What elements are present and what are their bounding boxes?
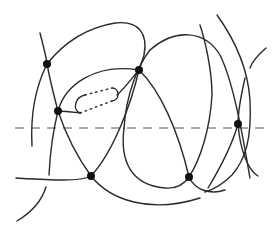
- curve-right-strand-b: [238, 48, 266, 176]
- node-5: [87, 172, 95, 180]
- node-4: [234, 120, 242, 128]
- curve-n2-to-bottom-left: [16, 70, 139, 180]
- curve-left-outer: [32, 64, 47, 146]
- node-3: [54, 107, 62, 115]
- curve-right-strand-c: [208, 124, 238, 188]
- node-2: [135, 66, 143, 74]
- handle-dotted-top: [85, 88, 112, 95]
- curve-top-loop: [47, 23, 145, 70]
- node-1: [43, 60, 51, 68]
- curve-left-strand: [40, 33, 200, 205]
- node-6: [185, 173, 193, 181]
- curve-middle-oval-left: [124, 50, 150, 128]
- handle-left-cap: [75, 95, 85, 113]
- curve-diagram: [0, 0, 279, 230]
- handle-dotted-bottom: [80, 101, 112, 113]
- curve-middle-oval: [123, 25, 250, 188]
